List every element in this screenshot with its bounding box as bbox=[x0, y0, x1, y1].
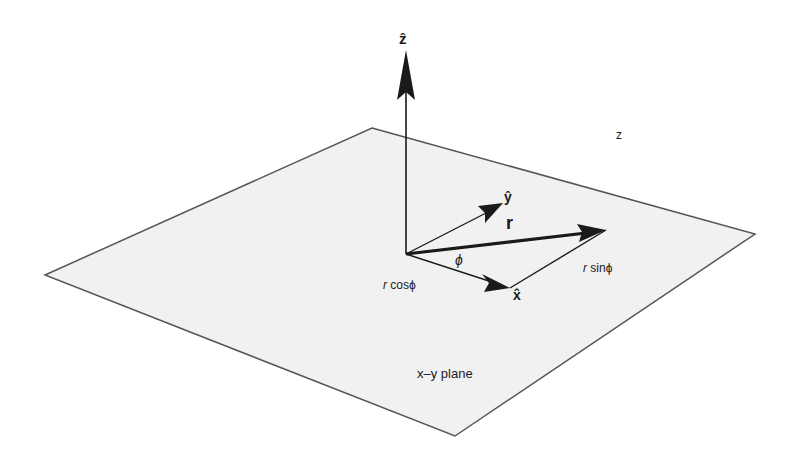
stray-z-label: z bbox=[616, 128, 622, 142]
r-cos-suffix: cosϕ bbox=[387, 278, 416, 292]
r-cos-label: r cosϕ bbox=[383, 278, 416, 292]
r-sin-label: r sinϕ bbox=[583, 261, 613, 275]
xy-plane-label: x–y plane bbox=[417, 366, 473, 381]
z-hat-label: ẑ bbox=[399, 30, 407, 47]
r-vector-label: r bbox=[506, 213, 513, 233]
phi-angle-label: ϕ bbox=[455, 252, 463, 268]
y-hat-label: ŷ bbox=[504, 189, 512, 205]
x-hat-label: x̂ bbox=[513, 287, 521, 303]
r-sin-suffix: sinϕ bbox=[587, 261, 613, 275]
vector-diagram: ẑ ŷ x̂ r ϕ r cosϕ r sinϕ x–y plane z bbox=[0, 0, 793, 460]
